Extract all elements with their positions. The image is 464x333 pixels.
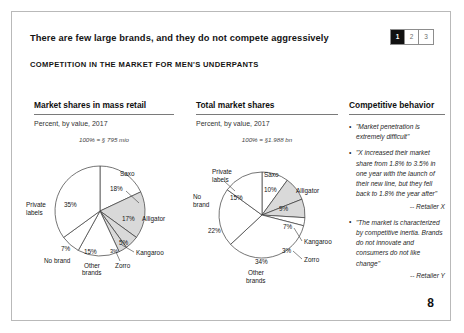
label-kangaroo-pct: 7% bbox=[283, 223, 293, 230]
column-competitive-behavior: Competitive behavior "Market penetration… bbox=[349, 100, 445, 287]
label-private-labels: Private bbox=[26, 201, 46, 208]
column-a-subtitle: Percent, by value, 2017 bbox=[34, 120, 174, 127]
column-total-market-shares: Total market shares Percent, by value, 2… bbox=[196, 100, 338, 291]
label-private-labels-pct: 15% bbox=[230, 194, 243, 201]
page-title: There are few large brands, and they do … bbox=[30, 33, 360, 43]
label-alligator-pct: 9% bbox=[279, 205, 289, 212]
label-kangaroo-pct: 5% bbox=[119, 239, 129, 246]
label-no-brand-pct: 7% bbox=[61, 245, 71, 252]
label-saxo-pct: 18% bbox=[110, 185, 123, 192]
label-saxo-pct: 10% bbox=[264, 186, 277, 193]
column-b-subtitle: Percent, by value, 2017 bbox=[196, 120, 338, 127]
label-no-brand: No bbox=[193, 193, 202, 200]
column-c-title: Competitive behavior bbox=[349, 100, 445, 115]
list-item: "The market is characterized by competit… bbox=[349, 218, 445, 281]
label-zorro-pct: 3% bbox=[110, 248, 118, 254]
label-no-brand-2: brand bbox=[193, 201, 210, 208]
page-tab-2[interactable]: 2 bbox=[405, 30, 419, 44]
pie-chart-total-market: Saxo 10% Alligator 9% Kangaroo 7% Zorro … bbox=[190, 141, 346, 291]
label-alligator: Alligator bbox=[296, 187, 320, 195]
label-private-labels-2: labels bbox=[212, 176, 229, 183]
label-other-brands: Other bbox=[248, 269, 265, 276]
slide-frame: There are few large brands, and they do … bbox=[11, 11, 451, 321]
page-tab-1[interactable]: 1 bbox=[391, 30, 405, 44]
quote-text: "Market penetration is extremely difficu… bbox=[356, 123, 420, 140]
label-other-brands-pct: 15% bbox=[84, 248, 97, 255]
pie-chart-mass-retail: Saxo 18% Alligator 17% Kangaroo 5% Zorro… bbox=[22, 141, 182, 291]
column-market-shares-mass-retail: Market shares in mass retail Percent, by… bbox=[34, 100, 174, 291]
page-tab-group[interactable]: 1 2 3 bbox=[390, 29, 434, 45]
label-alligator-pct: 17% bbox=[122, 215, 135, 222]
label-no-brand-pct: 22% bbox=[208, 227, 221, 234]
label-kangaroo: Kangaroo bbox=[136, 249, 164, 257]
quote-text: "X increased their market share from 1.8… bbox=[356, 149, 437, 197]
label-alligator: Alligator bbox=[142, 215, 166, 223]
column-b-title: Total market shares bbox=[196, 100, 338, 115]
list-item: "X increased their market share from 1.8… bbox=[349, 148, 445, 211]
quote-list: "Market penetration is extremely difficu… bbox=[349, 122, 445, 281]
label-no-brand: No brand bbox=[44, 257, 71, 264]
label-other-brands-2: brands bbox=[246, 277, 266, 284]
quote-attribution: -- Retailer X bbox=[356, 202, 445, 212]
slide-number: 8 bbox=[427, 296, 434, 310]
quote-attribution: -- Retailer Y bbox=[356, 271, 445, 281]
label-private-labels-2: labels bbox=[26, 209, 43, 216]
list-item: "Market penetration is extremely difficu… bbox=[349, 122, 445, 142]
page-tab-3[interactable]: 3 bbox=[419, 30, 433, 44]
label-other-brands: Other bbox=[84, 262, 101, 269]
label-zorro: Zorro bbox=[115, 262, 131, 269]
label-zorro-pct: 3% bbox=[282, 247, 292, 254]
label-other-brands-2: brands bbox=[82, 269, 102, 276]
label-saxo: Saxo bbox=[264, 171, 279, 178]
column-a-title: Market shares in mass retail bbox=[34, 100, 174, 115]
label-kangaroo: Kangaroo bbox=[304, 238, 332, 246]
label-private-labels-pct: 35% bbox=[64, 201, 77, 208]
label-private-labels: Private bbox=[212, 168, 232, 175]
page-subtitle: COMPETITION IN THE MARKET FOR MEN'S UNDE… bbox=[30, 60, 259, 69]
label-saxo: Saxo bbox=[120, 170, 135, 177]
leader-line-zorro bbox=[293, 251, 302, 259]
label-zorro: Zorro bbox=[304, 256, 320, 263]
quote-text: "The market is characterized by competit… bbox=[356, 219, 443, 267]
label-other-brands-pct: 34% bbox=[255, 258, 268, 265]
